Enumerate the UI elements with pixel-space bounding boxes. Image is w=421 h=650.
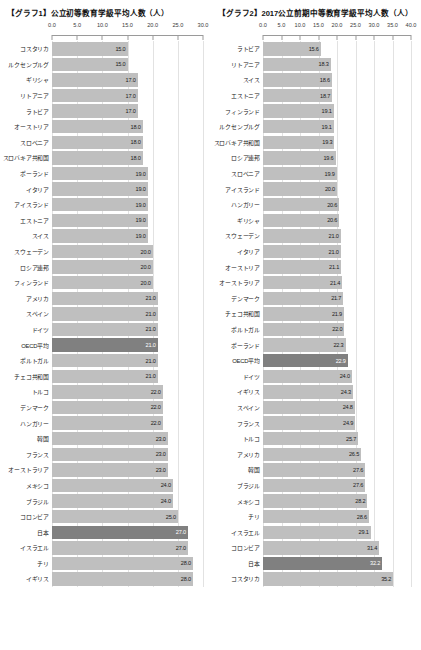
- axis-tick-mark: [52, 35, 53, 40]
- bar: 18.3: [263, 58, 331, 71]
- category-label: チリ: [0, 559, 52, 568]
- bar-row: フランス23.0: [0, 446, 211, 462]
- bar-value-label: 19.0: [136, 202, 148, 208]
- bar: 28.0: [52, 557, 193, 570]
- bar-value-label: 27.0: [176, 545, 188, 551]
- bar-row: ルクセンブルグ19.1: [211, 119, 421, 135]
- bar: 19.1: [263, 120, 334, 133]
- category-label: イギリス: [0, 574, 52, 583]
- bar-row: 日本32.2: [211, 556, 421, 572]
- bar: 24.0: [52, 479, 173, 492]
- category-label: フィンランド: [211, 107, 263, 116]
- axis-tick-label: 10.0: [97, 22, 108, 28]
- bar-track: 28.6: [263, 509, 421, 525]
- category-label: 日本: [211, 559, 263, 568]
- category-label: ポルトガル: [211, 325, 263, 334]
- category-label: スイス: [0, 231, 52, 240]
- category-label: メキシコ: [211, 497, 263, 506]
- bar-value-label: 21.0: [146, 373, 158, 379]
- bar-value-label: 22.0: [151, 420, 163, 426]
- bar-row: コスタリカ15.0: [0, 41, 211, 57]
- bar-row: ドイツ24.0: [211, 368, 421, 384]
- category-label: スペイン: [0, 309, 52, 318]
- chart-2-title: 【グラフ2】2017公立前期中等教育学級平均人数（人）: [211, 0, 421, 18]
- bar-row: オーストラリア23.0: [0, 462, 211, 478]
- bar-highlighted: 27.0: [52, 526, 188, 539]
- bar-value-label: 20.0: [141, 280, 153, 286]
- bar-value-label: 28.0: [181, 560, 193, 566]
- bar: 15.0: [52, 58, 128, 71]
- bar: 21.7: [263, 292, 343, 305]
- bar-row: イギリス24.3: [211, 384, 421, 400]
- bar: 19.9: [263, 167, 337, 180]
- bar: 20.6: [263, 214, 339, 227]
- bar-row: ラトビア17.0: [0, 103, 211, 119]
- bar-track: 24.9: [263, 415, 421, 431]
- bar-row: ロシア連邦19.6: [211, 150, 421, 166]
- bar-value-label: 27.0: [176, 529, 188, 535]
- bar-value-label: 23.0: [156, 467, 168, 473]
- category-label: アイスランド: [211, 185, 263, 194]
- bar: 21.0: [52, 307, 158, 320]
- bar-row: ラトビア15.6: [211, 41, 421, 57]
- bar-track: 28.0: [52, 556, 211, 572]
- bar-track: 22.0: [52, 400, 211, 416]
- bar-track: 25.0: [52, 509, 211, 525]
- bar: 20.0: [263, 182, 337, 195]
- category-label: デンマーク: [211, 294, 263, 303]
- bar-row: OECD平均21.0: [0, 337, 211, 353]
- chart-1-axis-labels: 0.05.010.015.020.025.030.0: [0, 22, 211, 35]
- bar: 28.0: [52, 572, 193, 585]
- category-label: ポーランド: [211, 341, 263, 350]
- bar-row: エストニア18.7: [211, 88, 421, 104]
- bar: 21.1: [263, 260, 341, 273]
- bar-row: コスタリカ35.2: [211, 571, 421, 587]
- bar-track: 29.1: [263, 524, 421, 540]
- bar: 21.0: [52, 354, 158, 367]
- axis-tick-label: 25.0: [172, 22, 183, 28]
- category-label: コロンビア: [211, 543, 263, 552]
- bar-row: コロンビア31.4: [211, 540, 421, 556]
- bar-highlighted: 32.2: [263, 557, 382, 570]
- bar-row: ブラジル24.0: [0, 493, 211, 509]
- category-label: スイス: [211, 75, 263, 84]
- bar-track: 21.0: [52, 306, 211, 322]
- bar-value-label: 24.3: [341, 389, 353, 395]
- bar: 24.0: [52, 494, 173, 507]
- category-label: ラトビア: [0, 107, 52, 116]
- bar-track: 21.1: [263, 259, 421, 275]
- bar-value-label: 17.0: [125, 108, 137, 114]
- bar-track: 15.0: [52, 41, 211, 57]
- bar: 19.0: [52, 182, 148, 195]
- bar-value-label: 17.0: [125, 93, 137, 99]
- bar-track: 21.0: [52, 337, 211, 353]
- bar-row: ギリシャ17.0: [0, 72, 211, 88]
- bar: 19.1: [263, 104, 334, 117]
- bar: 18.0: [52, 151, 143, 164]
- bar-track: 20.0: [263, 181, 421, 197]
- category-label: スロベニア: [0, 138, 52, 147]
- category-label: イタリア: [211, 247, 263, 256]
- bar-row: リトアニア18.3: [211, 57, 421, 73]
- bar-row: オーストラリア21.4: [211, 275, 421, 291]
- bar: 18.0: [52, 120, 143, 133]
- category-label: イギリス: [211, 387, 263, 396]
- bar-value-label: 19.0: [136, 217, 148, 223]
- bar-value-label: 19.1: [322, 124, 334, 130]
- bar-value-label: 24.9: [343, 420, 355, 426]
- axis-tick-mark: [281, 35, 282, 40]
- bar-value-label: 29.1: [359, 529, 371, 535]
- category-label: フランス: [211, 419, 263, 428]
- bar-row: ルクセンブルグ15.0: [0, 57, 211, 73]
- category-label: チェコ共和国: [211, 309, 263, 318]
- bar-row: チリ28.6: [211, 509, 421, 525]
- bar-row: ポーランド22.3: [211, 337, 421, 353]
- category-label: ブラジル: [0, 497, 52, 506]
- bar-row: デンマーク21.7: [211, 291, 421, 307]
- bar: 17.0: [52, 89, 138, 102]
- bar: 21.0: [52, 292, 158, 305]
- bar-track: 27.6: [263, 478, 421, 494]
- bar-value-label: 22.3: [333, 342, 345, 348]
- bar: 21.0: [52, 370, 158, 383]
- bar-value-label: 22.0: [151, 389, 163, 395]
